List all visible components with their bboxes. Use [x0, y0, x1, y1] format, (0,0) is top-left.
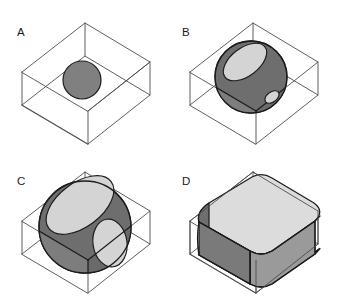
panel-c: C — [17, 164, 150, 299]
panel-d: D — [182, 172, 320, 293]
panel-a-label: A — [17, 26, 25, 38]
panel-b: B — [182, 23, 318, 150]
sphere-in-box-figure: A B — [0, 0, 339, 299]
panel-c-label: C — [17, 175, 25, 187]
panel-b-label: B — [182, 26, 190, 38]
panel-a: A — [17, 23, 150, 144]
panel-d-label: D — [182, 175, 190, 187]
box-front-lower-edge-overlay — [22, 105, 88, 144]
panel-a-sphere — [63, 61, 101, 99]
figure-root: A B — [0, 0, 339, 299]
